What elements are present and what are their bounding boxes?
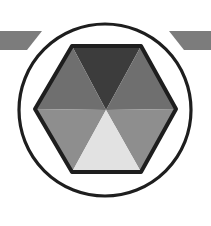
left-bar (0, 31, 42, 50)
hexagon-emblem-logo (0, 0, 211, 226)
right-bar (169, 31, 211, 50)
